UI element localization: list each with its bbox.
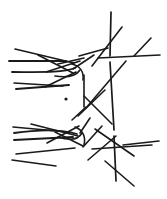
isolated-dot-marker (64, 97, 67, 100)
sketch-stroke (110, 12, 111, 56)
line-sketch-figure (0, 0, 167, 199)
sketch-canvas (0, 0, 167, 199)
annotation-dots-layer (64, 97, 67, 100)
